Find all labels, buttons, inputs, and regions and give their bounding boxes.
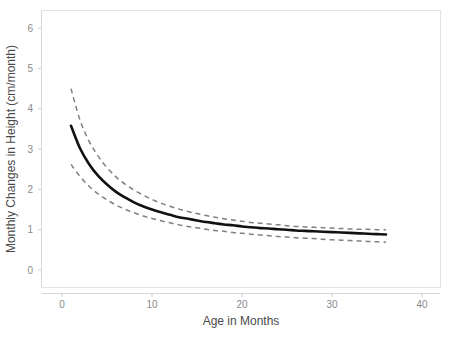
x-tick-label: 40 <box>416 299 428 310</box>
y-tick-labels: 0123456 <box>27 23 33 276</box>
x-tick-marks <box>62 294 422 298</box>
y-axis: 0123456 <box>27 11 41 288</box>
chart-figure: 0123456 010203040 Age in Months Monthly … <box>0 0 453 339</box>
line-chart: 0123456 010203040 Age in Months Monthly … <box>0 0 453 339</box>
y-tick-label: 6 <box>27 23 33 34</box>
y-tick-label: 3 <box>27 144 33 155</box>
plot-panel <box>42 11 441 288</box>
x-tick-label: 30 <box>326 299 338 310</box>
y-axis-title: Monthly Changes in Height (cm/month) <box>4 45 18 253</box>
x-tick-labels: 010203040 <box>59 299 428 310</box>
y-tick-label: 2 <box>27 184 33 195</box>
y-tick-label: 1 <box>27 224 33 235</box>
y-tick-label: 0 <box>27 265 33 276</box>
y-tick-label: 4 <box>27 103 33 114</box>
y-tick-label: 5 <box>27 63 33 74</box>
x-axis-title: Age in Months <box>203 314 280 328</box>
x-tick-label: 10 <box>146 299 158 310</box>
y-tick-marks <box>38 28 42 270</box>
x-tick-label: 20 <box>236 299 248 310</box>
x-axis: 010203040 <box>42 294 441 311</box>
x-tick-label: 0 <box>59 299 65 310</box>
